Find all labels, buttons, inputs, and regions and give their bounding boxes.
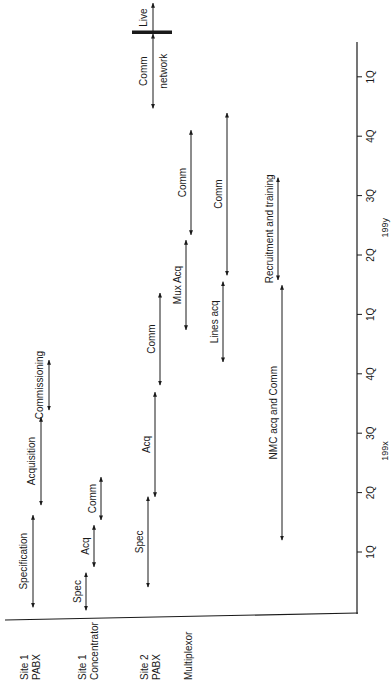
tick-label: 2Q xyxy=(365,248,376,262)
task-label: Comm xyxy=(138,56,149,85)
milestone: Live xyxy=(132,3,172,32)
task-label: Comm xyxy=(177,168,188,197)
gantt-chart: 1Q2Q3Q4Q1Q2Q3Q4Q1Q 199x199y Site 1PABXSi… xyxy=(0,0,392,693)
year-label: 199y xyxy=(380,217,390,237)
tick-label: 1Q xyxy=(365,70,376,84)
task-label: Mux Acq xyxy=(172,266,183,304)
tick-label: 3Q xyxy=(365,189,376,203)
task-label: Spec xyxy=(72,580,83,603)
row-label: Site 1 xyxy=(19,654,30,680)
task-label: Comm xyxy=(87,484,98,513)
task-label: Acq xyxy=(141,436,152,453)
baseline xyxy=(5,613,358,620)
tick-label: 2Q xyxy=(365,486,376,500)
year-labels: 199x199y xyxy=(380,217,390,460)
row-label: PABX xyxy=(151,654,162,680)
row-label: Multiplexor xyxy=(183,631,194,680)
task-label: Acq xyxy=(80,537,91,554)
axis-ticks: 1Q2Q3Q4Q1Q2Q3Q4Q1Q xyxy=(357,70,376,559)
task-label: Lines acq xyxy=(209,300,220,343)
task-sublabel: network xyxy=(158,53,169,89)
year-label: 199x xyxy=(380,441,390,461)
task-bars: SpecificationAcquisitionCommissioningSpe… xyxy=(18,34,283,610)
tick-label: 4Q xyxy=(365,367,376,381)
tick-label: 4Q xyxy=(365,129,376,143)
axes xyxy=(5,42,358,620)
task-label: Specification xyxy=(18,533,29,590)
row-label: PABX xyxy=(31,654,42,680)
tick-label: 1Q xyxy=(365,308,376,322)
tick-label: 3Q xyxy=(365,426,376,440)
task-label: NMC acq and Comm xyxy=(268,366,279,459)
task-label: Spec xyxy=(134,531,145,554)
task-label: Recruitment and training xyxy=(264,174,275,283)
row-label: Site 1 xyxy=(77,654,88,680)
task-label: Comm xyxy=(146,324,157,353)
milestone-label: Live xyxy=(138,8,149,27)
row-label: Site 2 xyxy=(139,654,150,680)
task-label: Comm xyxy=(213,179,224,208)
task-label: Acquisition xyxy=(26,437,37,485)
tick-label: 1Q xyxy=(365,545,376,559)
row-label: Concentrator xyxy=(89,622,100,680)
task-label: Commissioning xyxy=(34,351,45,419)
row-labels: Site 1PABXSite 1ConcentratorSite 2PABXMu… xyxy=(19,622,194,680)
